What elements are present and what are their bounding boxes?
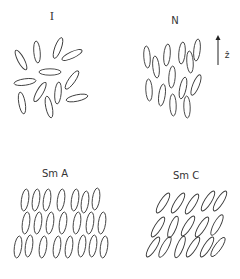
molecule-ellipse	[157, 84, 166, 107]
molecule-ellipse	[209, 213, 226, 237]
molecule-ellipse	[168, 66, 176, 88]
panel-nematic: Nẑ	[143, 15, 230, 118]
molecule-ellipse	[32, 81, 49, 103]
molecule-ellipse	[42, 189, 52, 212]
molecule-ellipse	[39, 69, 61, 75]
phase-label-isotropic: I	[50, 10, 54, 23]
molecule-ellipse	[211, 189, 229, 212]
molecule-ellipse	[91, 188, 101, 211]
molecule-ellipse	[179, 214, 197, 237]
molecule-ellipse	[154, 191, 172, 214]
molecule-ellipse	[149, 215, 167, 238]
director-arrow-icon	[216, 35, 221, 65]
molecule-ellipse	[13, 236, 23, 259]
molecule-ellipse	[169, 191, 187, 214]
molecule-ellipse	[14, 77, 37, 86]
molecule-ellipse	[145, 79, 153, 101]
molecule-ellipse	[20, 189, 30, 212]
molecule-ellipse	[24, 235, 34, 258]
molecules-nematic	[143, 39, 203, 118]
molecule-ellipse	[77, 235, 87, 258]
molecule-ellipse	[97, 212, 107, 235]
molecule-ellipse	[38, 236, 48, 259]
phase-label-smectic-c: Sm C	[173, 170, 199, 181]
molecule-ellipse	[33, 41, 41, 63]
molecule-ellipse	[72, 212, 82, 235]
molecule-ellipse	[184, 235, 202, 258]
molecule-ellipse	[56, 189, 66, 212]
molecule-ellipse	[17, 92, 27, 115]
liquid-crystal-phases-diagram: INẑSm ASm C	[0, 0, 240, 279]
molecule-ellipse	[85, 212, 95, 235]
molecule-ellipse	[64, 236, 74, 259]
molecule-ellipse	[169, 94, 176, 116]
molecule-ellipse	[183, 192, 201, 215]
molecule-ellipse	[54, 82, 62, 104]
molecule-ellipse	[52, 236, 62, 259]
director-label: ẑ	[225, 50, 230, 60]
molecule-ellipse	[152, 56, 161, 79]
molecule-ellipse	[58, 212, 68, 235]
molecules-isotropic	[13, 37, 88, 119]
molecule-ellipse	[157, 235, 174, 259]
molecule-ellipse	[183, 96, 190, 118]
molecule-ellipse	[173, 235, 188, 259]
molecule-ellipse	[13, 49, 29, 71]
molecule-ellipse	[166, 215, 181, 239]
molecule-ellipse	[45, 212, 55, 235]
phase-label-smectic-a: Sm A	[42, 168, 68, 179]
molecule-ellipse	[31, 189, 41, 212]
molecule-ellipse	[80, 191, 90, 214]
molecule-ellipse	[44, 96, 55, 119]
molecule-ellipse	[61, 47, 84, 62]
molecules-smectic-a	[13, 188, 109, 259]
phase-label-nematic: N	[171, 15, 178, 26]
molecule-ellipse	[21, 212, 31, 235]
molecule-ellipse	[66, 93, 89, 104]
panel-smectic-a: Sm A	[13, 168, 109, 258]
molecule-ellipse	[144, 235, 162, 258]
molecule-ellipse	[33, 212, 43, 235]
panel-smectic-c: Sm C	[144, 170, 229, 259]
molecule-ellipse	[178, 42, 186, 64]
molecule-ellipse	[186, 51, 194, 73]
molecule-ellipse	[163, 44, 171, 66]
molecule-ellipse	[63, 69, 81, 91]
molecule-ellipse	[88, 235, 98, 258]
molecule-ellipse	[99, 236, 109, 259]
panel-isotropic: I	[13, 10, 88, 118]
molecule-ellipse	[198, 235, 216, 258]
molecules-smectic-c	[144, 189, 229, 258]
molecule-ellipse	[70, 189, 80, 212]
molecule-ellipse	[199, 189, 217, 212]
phase-panels: INẑSm ASm C	[13, 10, 230, 259]
molecule-ellipse	[193, 39, 202, 62]
molecule-ellipse	[193, 215, 211, 238]
molecule-ellipse	[51, 37, 65, 60]
molecule-ellipse	[143, 46, 151, 68]
molecule-ellipse	[189, 74, 203, 97]
